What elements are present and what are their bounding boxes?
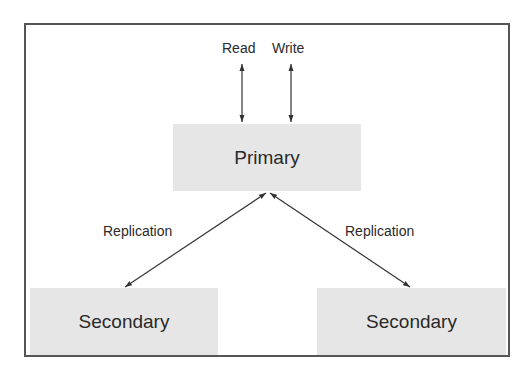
replication-label-left: Replication xyxy=(103,223,172,239)
secondary-node-right: Secondary xyxy=(317,288,506,355)
write-label: Write xyxy=(272,40,304,56)
secondary-node-left: Secondary xyxy=(30,288,218,355)
secondary-right-label: Secondary xyxy=(366,311,457,333)
read-label: Read xyxy=(222,40,255,56)
secondary-left-label: Secondary xyxy=(79,311,170,333)
primary-node: Primary xyxy=(173,124,361,191)
replication-label-right: Replication xyxy=(345,223,414,239)
replication-arrow-left xyxy=(125,193,266,287)
replication-arrow-right xyxy=(270,193,410,287)
primary-label: Primary xyxy=(234,147,299,169)
